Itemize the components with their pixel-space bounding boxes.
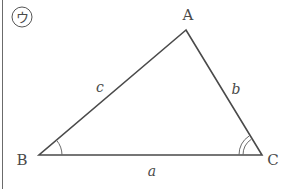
vertex-c-label: C xyxy=(267,151,278,169)
triangle-figure: ウ A B C c b a xyxy=(0,0,287,189)
figure-badge-label: ウ xyxy=(16,10,29,25)
angle-b-arc xyxy=(57,140,63,155)
side-b-label: b xyxy=(232,81,241,97)
side-a-label: a xyxy=(148,163,156,179)
side-c-label: c xyxy=(96,79,104,95)
angle-c-arc-inner xyxy=(243,139,251,155)
figure-badge: ウ xyxy=(12,7,32,27)
vertex-b-label: B xyxy=(16,151,27,169)
vertex-a-label: A xyxy=(182,6,194,24)
angle-c-arc-outer xyxy=(239,136,249,155)
triangle-abc xyxy=(39,30,262,155)
triangle-diagram: ウ A B C c b a xyxy=(0,0,287,189)
